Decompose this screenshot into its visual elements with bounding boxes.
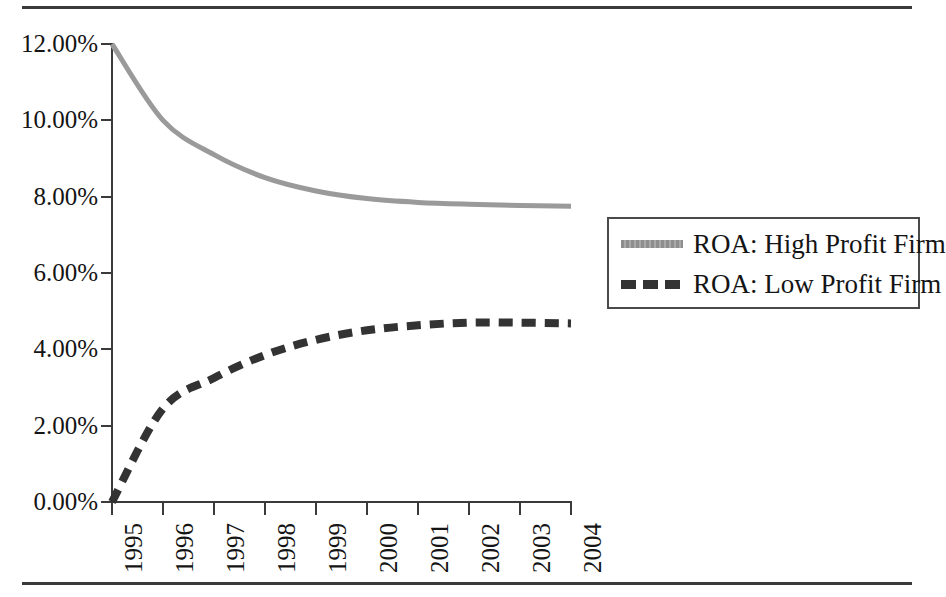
x-axis-label: 1997 xyxy=(223,523,248,573)
legend-item-low-profit: ROA: Low Profit Firm xyxy=(609,264,918,304)
x-axis-label: 1999 xyxy=(325,523,350,573)
legend-label-low-profit: ROA: Low Profit Firm xyxy=(693,271,941,298)
x-axis-label: 2002 xyxy=(478,523,503,573)
chart-legend: ROA: High Profit Firm ROA: Low Profit Fi… xyxy=(607,217,920,309)
x-axis-label: 1996 xyxy=(172,523,197,573)
legend-item-high-profit: ROA: High Profit Firm xyxy=(609,224,918,264)
legend-swatch-low-profit-icon xyxy=(621,280,683,289)
x-axis-label: 2004 xyxy=(580,523,605,573)
x-axis-label: 2000 xyxy=(376,523,401,573)
x-axis-label: 1995 xyxy=(121,523,146,573)
x-axis-label: 1998 xyxy=(274,523,299,573)
x-axis-label: 2003 xyxy=(529,523,554,573)
legend-swatch-high-profit-icon xyxy=(621,240,683,248)
x-axis-label: 2001 xyxy=(427,523,452,573)
legend-label-high-profit: ROA: High Profit Firm xyxy=(693,231,946,258)
